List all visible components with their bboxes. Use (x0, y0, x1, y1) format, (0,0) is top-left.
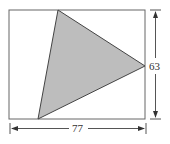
diagram-canvas: 63 77 (0, 0, 170, 144)
arrow-left-icon (11, 126, 18, 131)
arrow-down-icon (153, 111, 158, 118)
arrow-right-icon (138, 126, 145, 131)
height-label: 63 (149, 60, 161, 72)
arrow-up-icon (153, 11, 158, 18)
width-label: 77 (72, 122, 84, 134)
shaded-triangle (38, 10, 145, 119)
